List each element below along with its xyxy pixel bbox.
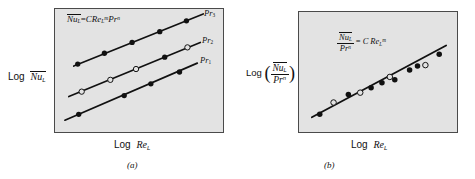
panel-a-y-axis-symbol: Nu xyxy=(30,71,42,82)
panel-a-curve-label-pr2-sub: 2 xyxy=(211,39,214,45)
panel-b-y-axis-den-sup: n xyxy=(283,75,286,81)
panel-a-equation: NuL=CReLmPrn xyxy=(67,14,120,25)
panel-a-eq-pr-sup: n xyxy=(117,15,120,21)
panel-b-caption: (b) xyxy=(324,160,335,170)
panel-a-eq-nu: Nu xyxy=(67,14,78,24)
panel-a-y-axis-label: Log NuL xyxy=(8,71,46,83)
panel-b-y-axis-paren-close: ) xyxy=(289,66,295,81)
panel-b-eq-num: Nu xyxy=(339,32,349,42)
panel-a-curve-label-pr1-sub: 1 xyxy=(209,59,212,65)
panel-b-x-axis-label: Log ReL xyxy=(351,140,387,151)
panel-a-x-axis-symbol: Re xyxy=(136,139,147,150)
panel-b-eq-num-sub: L xyxy=(349,36,352,42)
panel-a-x-axis-sub: L xyxy=(147,144,150,151)
panel-a-curve-label-pr3: Pr3 xyxy=(204,9,215,19)
panel-a-points-pr2 xyxy=(79,45,190,95)
panel-b: Log (NuLPrn) xyxy=(240,0,475,179)
panel-b-x-axis-prefix: Log xyxy=(351,139,368,150)
panel-b-line-fit xyxy=(312,45,446,117)
panel-a-curve-label-pr1: Pr1 xyxy=(200,56,211,66)
panel-a-caption: (a) xyxy=(127,160,138,170)
panel-a-y-axis-prefix: Log xyxy=(8,71,25,82)
panel-b-y-axis-label: Log (NuLPrn) xyxy=(246,62,295,86)
panel-b-y-axis-den: Pr xyxy=(273,75,283,85)
panel-b-y-axis-prefix: Log xyxy=(246,67,262,78)
panel-b-eq-coef: C xyxy=(363,36,369,46)
panel-a-curve-label-pr2-text: Pr xyxy=(202,35,211,45)
panel-a-curve-label-pr3-text: Pr xyxy=(204,8,213,18)
panel-a-eq-re: Re xyxy=(92,14,102,24)
panel-a-curve-label-pr2: Pr2 xyxy=(202,36,213,46)
panel-b-plot-svg xyxy=(299,12,457,132)
panel-a-plot-svg xyxy=(55,9,223,132)
panel-b-y-axis-num-sub: L xyxy=(284,67,287,73)
panel-b-equation: NuLPrn=CReLm xyxy=(337,32,386,53)
panel-a-curve-label-pr3-sub: 3 xyxy=(213,12,216,18)
panel-b-y-axis-fraction: NuLPrn xyxy=(271,62,289,86)
panel-b-eq-den-sup: n xyxy=(348,43,351,49)
figure-root: Log NuL xyxy=(0,0,475,179)
panel-b-plot-area: NuLPrn=CReLm xyxy=(298,11,458,133)
panel-b-x-axis-sub: L xyxy=(384,144,387,151)
panel-a-x-axis-label: Log ReL xyxy=(114,140,150,151)
panel-a-eq-pr: Pr xyxy=(108,14,117,24)
panel-a-curve-label-pr1-text: Pr xyxy=(200,55,209,65)
panel-b-y-axis-num: Nu xyxy=(273,63,284,73)
panel-b-points xyxy=(317,52,442,118)
panel-b-eq-equals: = xyxy=(356,36,361,46)
panel-a-y-axis-sub: L xyxy=(42,76,45,83)
panel-b-eq-fraction: NuLPrn xyxy=(337,32,354,53)
panel-b-eq-re: Re xyxy=(370,36,379,46)
panel-a-plot-area: NuL=CReLmPrn xyxy=(54,8,224,133)
panel-b-x-axis-symbol: Re xyxy=(373,139,384,150)
panel-a-x-axis-prefix: Log xyxy=(114,139,131,150)
panel-a: Log NuL xyxy=(0,0,240,179)
panel-b-eq-re-sup: m xyxy=(382,37,386,43)
